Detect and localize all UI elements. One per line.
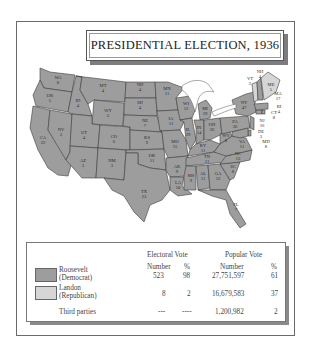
ev-number: --- [158,308,165,316]
title-box: PRESIDENTIAL ELECTION, 1936 [86,30,284,61]
svg-text:47: 47 [242,105,247,110]
svg-text:10: 10 [176,185,181,190]
state-ct[interactable] [256,110,262,114]
svg-text:3: 3 [249,81,252,86]
svg-text:11: 11 [205,159,210,164]
pv-percent: 2 [274,308,278,316]
ev-percent: 2 [187,290,191,298]
svg-text:19: 19 [203,111,208,116]
svg-text:13: 13 [236,156,241,161]
swatch-democrat [35,268,57,282]
svg-text:11: 11 [150,158,155,163]
state-fl[interactable] [198,190,246,228]
swatch-republican [35,286,57,300]
candidate-name: Roosevelt [59,266,88,274]
svg-text:17: 17 [276,96,281,101]
ev-percent: 98 [183,272,190,280]
svg-text:11: 11 [201,148,206,153]
pv-percent: 61 [271,272,278,280]
state-ri[interactable] [262,110,265,114]
state-de[interactable] [248,130,251,136]
svg-text:8: 8 [273,115,276,120]
legend-table: Electoral Vote Popular Vote Number % Num… [26,242,286,322]
svg-text:11: 11 [169,121,174,126]
candidate-party: (Republican) [59,292,97,300]
svg-text:4: 4 [278,109,281,114]
ev-number: 8 [162,290,166,298]
svg-text:26: 26 [210,127,215,132]
svg-text:29: 29 [186,132,191,137]
svg-text:23: 23 [142,194,147,199]
header-electoral-vote: Electoral Vote [147,251,188,259]
svg-text:15: 15 [173,144,178,149]
header-ev-percent: % [184,263,190,271]
header-pv-number: Number [220,263,244,271]
candidate-name: Landon [59,284,81,292]
pv-number: 1,200,982 [215,308,244,316]
candidate-party: (Democrat) [59,274,92,282]
ev-percent: ---- [182,308,192,316]
svg-text:11: 11 [165,91,170,96]
svg-text:36: 36 [233,124,238,129]
map-title: PRESIDENTIAL ELECTION, 1936 [91,38,280,53]
state-nj[interactable] [250,116,254,130]
svg-text:14: 14 [197,130,202,135]
svg-text:12: 12 [184,106,189,111]
pv-percent: 37 [271,290,278,298]
svg-text:16: 16 [260,123,265,128]
svg-text:11: 11 [201,176,206,181]
candidate-name: Third parties [59,308,96,316]
svg-text:22: 22 [41,140,46,145]
pv-number: 16,679,583 [212,290,244,298]
svg-text:11: 11 [240,144,245,149]
svg-text:12: 12 [216,176,221,181]
pv-number: 27,751,597 [212,272,244,280]
state-ma[interactable] [254,103,268,110]
header-pv-percent: % [271,263,277,271]
header-ev-number: Number [147,263,171,271]
header-popular-vote: Popular Vote [225,251,262,259]
lake-erie [212,104,236,116]
svg-text:8: 8 [265,144,268,149]
ev-number: 523 [153,272,164,280]
